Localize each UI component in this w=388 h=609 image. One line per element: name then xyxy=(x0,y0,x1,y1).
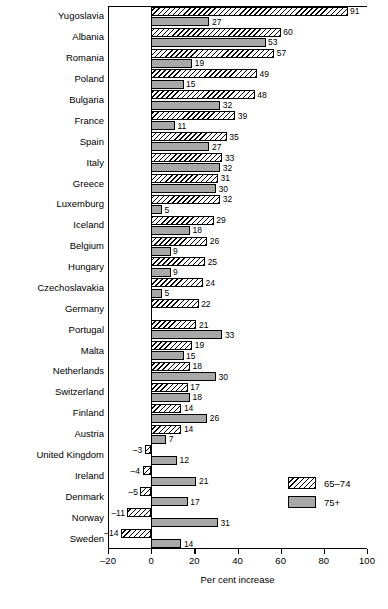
bar-75+-ireland xyxy=(151,477,196,486)
category-label: Romania xyxy=(0,53,104,63)
bar-6574-netherlands xyxy=(151,362,190,371)
bar-value-label: 21 xyxy=(199,321,208,330)
bar-6574-sweden xyxy=(121,529,151,538)
bar-6574-united-kingdom xyxy=(145,445,151,454)
bar-75+-luxemburg xyxy=(151,205,162,214)
bar-value-label: 14 xyxy=(184,404,193,413)
bar-75+-norway xyxy=(151,518,218,527)
category-label: Ireland xyxy=(0,471,104,481)
bar-6574-germany xyxy=(151,299,198,308)
bar-value-label: 18 xyxy=(193,393,202,402)
bar-value-label: 53 xyxy=(268,38,277,47)
bar-value-label: 26 xyxy=(210,237,219,246)
bar-value-label: 19 xyxy=(195,341,204,350)
category-label: Austria xyxy=(0,429,104,439)
bar-value-label: 22 xyxy=(201,300,210,309)
bar-6574-spain xyxy=(151,132,227,141)
bar-value-label: 30 xyxy=(218,185,227,194)
category-label: Germany xyxy=(0,304,104,314)
bar-75+-iceland xyxy=(151,226,190,235)
category-label: Portugal xyxy=(0,325,104,335)
category-label: Albania xyxy=(0,32,104,42)
bar-6574-greece xyxy=(151,174,218,183)
category-label: Spain xyxy=(0,137,104,147)
bar-value-label: 14 xyxy=(184,540,193,549)
bar-value-label: 91 xyxy=(350,7,359,16)
bar-value-label: 49 xyxy=(259,70,268,79)
bar-value-label: 33 xyxy=(225,154,234,163)
category-label: Belgium xyxy=(0,241,104,251)
legend-label: 65–74 xyxy=(324,478,350,489)
bar-value-label: 33 xyxy=(225,331,234,340)
bar-75+-switzerland xyxy=(151,393,190,402)
bar-75+-albania xyxy=(151,38,265,47)
bar-75+-denmark xyxy=(151,497,188,506)
category-label: Iceland xyxy=(0,220,104,230)
bar-value-label: 48 xyxy=(257,91,266,100)
x-axis-title: Per cent increase xyxy=(108,574,367,585)
bar-75+-bulgaria xyxy=(151,101,220,110)
plot-area: 9160574948393533313229262524222119181714… xyxy=(108,6,367,549)
bar-value-label: 5 xyxy=(164,206,169,215)
bar-6574-denmark xyxy=(140,487,151,496)
bar-value-label: 14 xyxy=(184,425,193,434)
bar-value-label: 57 xyxy=(277,49,286,58)
bar-75+-romania xyxy=(151,59,192,68)
bar-6574-czechoslavakia xyxy=(151,278,203,287)
bar-6574-yugoslavia xyxy=(151,7,347,16)
bar-value-label: 35 xyxy=(229,133,238,142)
bar-value-label: 27 xyxy=(212,143,221,152)
bar-value-label: 5 xyxy=(164,289,169,298)
category-label: Denmark xyxy=(0,492,104,502)
bar-6574-italy xyxy=(151,153,222,162)
bar-75+-malta xyxy=(151,351,183,360)
x-axis-tick-label: 20 xyxy=(189,555,200,566)
bar-6574-norway xyxy=(127,508,151,517)
x-axis-tick xyxy=(194,549,195,554)
x-axis-tick-label: 100 xyxy=(359,555,375,566)
category-label: Netherlands xyxy=(0,366,104,376)
x-axis-tick xyxy=(238,549,239,554)
x-axis-tick xyxy=(108,549,109,554)
category-label: Malta xyxy=(0,346,104,356)
legend-swatch-65-74 xyxy=(288,477,316,489)
bar-6574-austria xyxy=(151,425,181,434)
bar-75+-belgium xyxy=(151,247,170,256)
bar-75+-hungary xyxy=(151,268,170,277)
bar-6574-iceland xyxy=(151,216,214,225)
x-axis-tick xyxy=(367,549,368,554)
bar-value-label: 21 xyxy=(199,477,208,486)
category-label: Sweden xyxy=(0,534,104,544)
bar-value-label: 31 xyxy=(221,519,230,528)
bar-6574-romania xyxy=(151,49,274,58)
bar-6574-bulgaria xyxy=(151,90,255,99)
x-axis-tick-label: 0 xyxy=(149,555,154,566)
bar-value-label: 18 xyxy=(193,226,202,235)
bar-value-label: 11 xyxy=(177,122,186,131)
bar-75+-finland xyxy=(151,414,207,423)
bar-75+-czechoslavakia xyxy=(151,289,162,298)
bar-value-label: 7 xyxy=(169,435,174,444)
bar-6574-hungary xyxy=(151,257,205,266)
x-axis-tick xyxy=(151,549,152,554)
legend-label: 75+ xyxy=(324,497,340,508)
bar-75+-spain xyxy=(151,142,209,151)
category-label: Norway xyxy=(0,513,104,523)
bar-value-label: –14 xyxy=(104,529,118,538)
x-axis-tick-label: 80 xyxy=(319,555,330,566)
bar-75+-greece xyxy=(151,184,216,193)
bar-chart: YugoslaviaAlbaniaRomaniaPolandBulgariaFr… xyxy=(0,0,388,609)
bar-value-label: 26 xyxy=(210,414,219,423)
bar-value-label: –11 xyxy=(111,509,125,518)
category-label: Switzerland xyxy=(0,387,104,397)
bar-value-label: 32 xyxy=(223,195,232,204)
category-label: Czechoslavakia xyxy=(0,283,104,293)
bar-value-label: 17 xyxy=(190,498,199,507)
bar-value-label: –5 xyxy=(128,488,137,497)
bar-value-label: 25 xyxy=(208,258,217,267)
category-label: Poland xyxy=(0,74,104,84)
bar-6574-luxemburg xyxy=(151,195,220,204)
bar-value-label: 18 xyxy=(193,362,202,371)
bar-6574-switzerland xyxy=(151,383,188,392)
bar-value-label: 27 xyxy=(212,18,221,27)
